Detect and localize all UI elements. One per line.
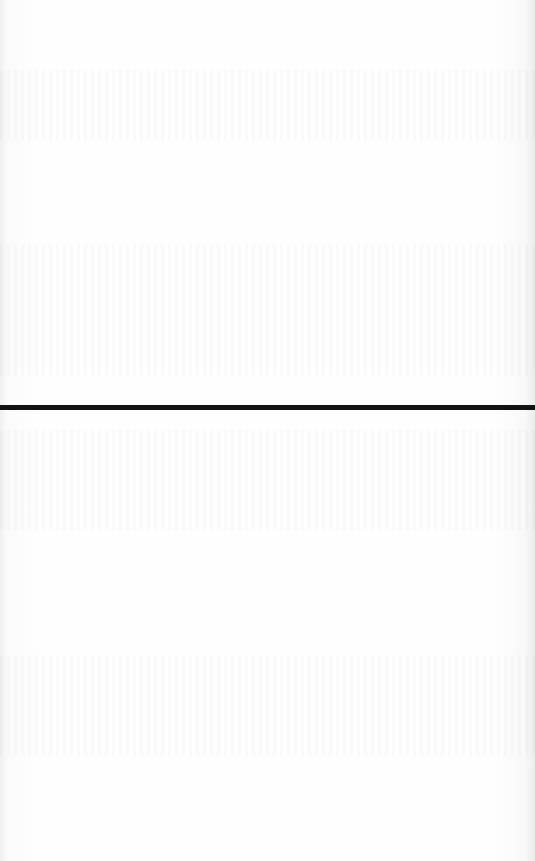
horizontal-rule <box>0 405 535 410</box>
scanned-page <box>0 0 535 861</box>
bleed-through-region <box>0 430 535 530</box>
bleed-through-region <box>0 655 535 755</box>
bleed-through-region <box>0 70 535 140</box>
bleed-through-region <box>0 245 535 375</box>
